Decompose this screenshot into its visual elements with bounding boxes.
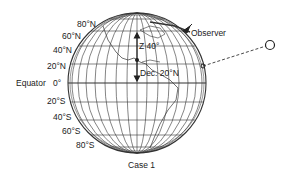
globe-diagram — [0, 0, 283, 184]
observer-label: Observer — [191, 29, 226, 38]
label-20n: 20°N — [47, 62, 66, 71]
label-0: 0° — [53, 79, 61, 88]
sun-ray-dashed-line — [203, 46, 266, 66]
label-80n: 80°N — [77, 20, 96, 29]
label-60s: 60°S — [62, 127, 81, 136]
equator-label: Equator — [16, 79, 46, 88]
label-40n: 40°N — [53, 46, 72, 55]
caption: Case 1 — [0, 160, 283, 170]
sun-circle-icon — [266, 41, 275, 50]
zenith-label: Z 40° — [139, 42, 159, 51]
label-80s: 80°S — [76, 141, 95, 150]
label-60n: 60°N — [62, 32, 81, 41]
label-40s: 40°S — [53, 113, 72, 122]
declination-label: Dec. 20°N — [140, 69, 179, 78]
label-20s: 20°S — [47, 97, 66, 106]
